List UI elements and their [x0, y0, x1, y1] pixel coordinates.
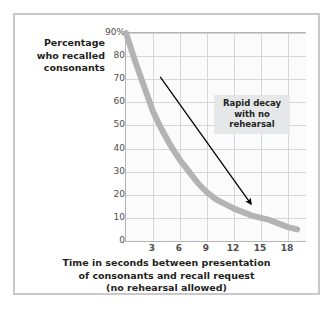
x-tick-12: 12 — [227, 243, 240, 253]
annotation-line-1: Rapid decay — [216, 98, 288, 109]
x-tick-9: 9 — [203, 243, 209, 253]
y-tick-30: 30 — [89, 166, 125, 176]
x-axis-label: Time in seconds between presentation of … — [15, 257, 318, 295]
plot-area: Rapid decay with no rehearsal — [125, 32, 306, 242]
cut-off-caption — [0, 311, 336, 320]
annotation-box: Rapid decay with no rehearsal — [214, 95, 290, 134]
y-tick-20: 20 — [89, 189, 125, 199]
x-axis-label-line-1: Time in seconds between presentation — [15, 257, 318, 270]
y-tick-40: 40 — [89, 143, 125, 153]
y-axis-tick-labels: 90%80706050403020100 — [89, 15, 125, 297]
figure-frame: Percentage who recalled consonants 90%80… — [13, 13, 320, 295]
y-tick-60: 60 — [89, 96, 125, 106]
annotation-arrow-icon — [126, 33, 306, 241]
y-tick-80: 80 — [89, 50, 125, 60]
x-tick-3: 3 — [149, 243, 155, 253]
y-tick-90: 90% — [89, 27, 125, 37]
y-tick-10: 10 — [89, 212, 125, 222]
annotation-line-2: with no — [216, 109, 288, 120]
x-tick-6: 6 — [176, 243, 182, 253]
y-tick-50: 50 — [89, 119, 125, 129]
x-tick-18: 18 — [281, 243, 294, 253]
x-axis-tick-labels: 369121518 — [125, 243, 307, 257]
annotation-line-3: rehearsal — [216, 119, 288, 130]
y-tick-70: 70 — [89, 73, 125, 83]
y-tick-0: 0 — [89, 235, 125, 245]
x-tick-15: 15 — [254, 243, 267, 253]
x-axis-label-line-2: of consonants and recall request — [15, 270, 318, 283]
x-axis-label-line-3: (no rehearsal allowed) — [15, 282, 318, 295]
